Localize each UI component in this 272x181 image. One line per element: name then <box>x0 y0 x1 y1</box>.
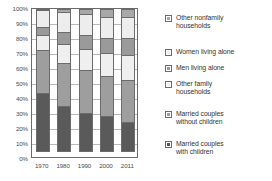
segment-married-couples-without-children[interactable] <box>79 70 93 114</box>
y-axis-tick-label: 30% <box>16 110 28 117</box>
legend-item-women-living-alone[interactable]: Women living alone <box>165 48 234 56</box>
legend-label: Other nonfamily households <box>176 14 223 30</box>
segment-other-family-households[interactable] <box>100 53 114 77</box>
legend-label: Married couples with children <box>176 140 224 156</box>
segment-other-family-households[interactable] <box>121 55 135 82</box>
segment-other-family-households[interactable] <box>36 35 50 51</box>
legend-item-married-couples-with-children[interactable]: Married couples with children <box>165 140 224 156</box>
legend-swatch-icon <box>165 81 172 88</box>
y-axis-tick-label: 10% <box>16 140 28 147</box>
legend-item-other-nonfamily-households[interactable]: Other nonfamily households <box>165 14 223 30</box>
x-axis-tick-label: 1990 <box>78 162 91 169</box>
y-axis-tick-label: 0% <box>19 155 28 162</box>
chart-legend: Other nonfamily householdsWomen living a… <box>165 6 272 176</box>
legend-label: Other family households <box>176 80 212 96</box>
segment-married-couples-with-children[interactable] <box>121 122 135 152</box>
segment-men-living-alone[interactable] <box>100 38 114 54</box>
y-axis-tick-label: 20% <box>16 125 28 132</box>
y-axis-tick-label: 90% <box>16 20 28 27</box>
segment-women-living-alone[interactable] <box>36 10 50 28</box>
segment-married-couples-without-children[interactable] <box>100 76 114 117</box>
segment-married-couples-without-children[interactable] <box>121 80 135 123</box>
y-axis-tick-label: 80% <box>16 35 28 42</box>
legend-item-men-living-alone[interactable]: Men living alone <box>165 64 224 72</box>
segment-other-family-households[interactable] <box>57 44 71 63</box>
legend-swatch-icon <box>165 111 172 118</box>
segment-women-living-alone[interactable] <box>79 14 93 36</box>
plot-area <box>31 8 138 158</box>
legend-item-other-family-households[interactable]: Other family households <box>165 80 212 96</box>
y-axis-tick-label: 70% <box>16 50 28 57</box>
segment-women-living-alone[interactable] <box>100 17 114 39</box>
y-axis-tick-label: 40% <box>16 95 28 102</box>
bar-2011[interactable] <box>121 9 135 157</box>
legend-label: Married couples without children <box>176 110 224 126</box>
bar-2000[interactable] <box>100 9 114 157</box>
x-axis-tick-label: 2000 <box>99 162 112 169</box>
segment-men-living-alone[interactable] <box>121 38 135 56</box>
segment-other-family-households[interactable] <box>79 49 93 71</box>
y-axis-tick-label: 60% <box>16 65 28 72</box>
segment-married-couples-with-children[interactable] <box>36 93 50 152</box>
segment-men-living-alone[interactable] <box>79 35 93 50</box>
x-axis-tick-label: 2011 <box>121 162 134 169</box>
x-axis-tick-label: 1970 <box>35 162 48 169</box>
y-axis-tick-label: 100% <box>13 5 28 12</box>
segment-married-couples-with-children[interactable] <box>100 116 114 152</box>
segment-men-living-alone[interactable] <box>57 32 71 45</box>
legend-label: Women living alone <box>176 48 234 56</box>
y-axis: 0%10%20%30%40%50%60%70%80%90%100% <box>0 0 31 181</box>
legend-swatch-icon <box>165 49 172 56</box>
bar-1980[interactable] <box>57 9 71 157</box>
x-axis: 19701980199020002011 <box>31 159 138 173</box>
segment-married-couples-with-children[interactable] <box>79 113 93 151</box>
chart-root: 0%10%20%30%40%50%60%70%80%90%100% 197019… <box>0 0 272 181</box>
x-axis-tick-label: 1980 <box>56 162 69 169</box>
segment-women-living-alone[interactable] <box>121 17 135 39</box>
segment-married-couples-with-children[interactable] <box>57 106 71 152</box>
legend-swatch-icon <box>165 15 172 22</box>
segment-married-couples-without-children[interactable] <box>36 50 50 94</box>
segment-women-living-alone[interactable] <box>57 12 71 33</box>
legend-item-married-couples-without-children[interactable]: Married couples without children <box>165 110 224 126</box>
bar-1970[interactable] <box>36 9 50 157</box>
legend-swatch-icon <box>165 141 172 148</box>
legend-label: Men living alone <box>176 64 224 72</box>
y-axis-tick-label: 50% <box>16 80 28 87</box>
bar-1990[interactable] <box>79 9 93 157</box>
legend-swatch-icon <box>165 65 172 72</box>
segment-married-couples-without-children[interactable] <box>57 63 71 107</box>
